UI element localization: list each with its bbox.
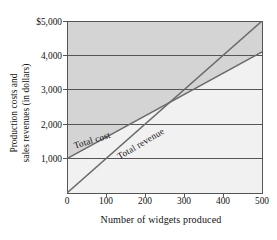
y-axis-ticks — [63, 21, 67, 159]
x-tick-label-0: 0 — [50, 196, 84, 207]
x-tick-label-400: 400 — [206, 196, 240, 207]
x-axis-title: Number of widgets produced — [46, 214, 276, 225]
chart-figure: Production costs and sales revenues (in … — [0, 0, 277, 240]
x-tick-label-200: 200 — [128, 196, 162, 207]
x-tick-label-300: 300 — [167, 196, 201, 207]
x-tick-label-500: 500 — [245, 196, 277, 207]
x-tick-label-100: 100 — [89, 196, 123, 207]
